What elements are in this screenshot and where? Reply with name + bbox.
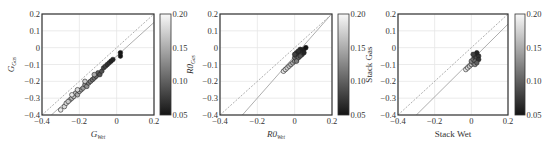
y-tick-label: −0.2 [381,76,396,86]
y-tick-label: 0.2 [29,9,40,19]
colorbar-tick-label: 0.20 [527,9,542,19]
scatter-panel-2: −0.4−0.200.20.20.10−0.1−0.2−0.3−0.4R0Wet… [185,9,365,140]
colorbar-tick-label: 0.10 [527,76,542,86]
y-tick-label: −0.1 [381,60,396,70]
y-tick-label: −0.4 [381,110,397,120]
y-tick-label: −0.3 [381,93,396,103]
x-axis-label: GWet [91,129,106,140]
x-axis-label: R0Wet [266,129,286,140]
colorbar-tick-label: 0.05 [351,110,366,120]
y-tick-label: −0.3 [25,93,40,103]
colorbar-tick-label: 0.15 [527,43,542,53]
data-point [92,72,97,77]
x-tick-label: −0.2 [72,116,87,126]
colorbar-tick-label: 0.15 [173,43,188,53]
y-tick-label: 0.1 [29,26,40,36]
data-point [111,57,116,62]
data-point [292,52,297,57]
y-tick-label: 0 [214,43,218,53]
y-tick-label: −0.3 [203,93,218,103]
data-point [66,99,71,104]
y-tick-label: 0.1 [385,26,396,36]
x-tick-label: −0.2 [250,116,265,126]
x-tick-label: 0.2 [327,116,338,126]
data-point [58,108,63,113]
x-tick-label: 0.2 [503,116,514,126]
y-tick-label: 0 [392,43,396,53]
y-axis-label: Stack Gas [364,46,374,83]
y-tick-label: −0.4 [203,110,219,120]
y-tick-label: 0.1 [207,26,218,36]
figure: −0.4−0.200.20.20.10−0.1−0.2−0.3−0.4GWetG… [0,0,554,148]
data-point [83,79,88,84]
y-tick-label: 0 [36,43,40,53]
x-tick-label: 0.2 [149,116,160,126]
colorbar: 0.200.150.100.05 [515,9,541,120]
fit-line [416,24,508,115]
data-point [296,49,301,54]
y-axis-label: GGas [6,57,17,72]
colorbar: 0.200.150.100.05 [338,9,365,120]
x-tick-label: −0.2 [427,116,442,126]
colorbar-tick-label: 0.05 [173,110,188,120]
data-point [298,54,303,59]
scatter-panel-3: −0.4−0.200.20.20.10−0.1−0.2−0.3−0.4Stack… [364,9,541,139]
y-tick-label: −0.1 [25,60,40,70]
colorbar: 0.200.150.100.05 [160,9,187,120]
colorbar-tick-label: 0.20 [173,9,188,19]
colorbar-tick-label: 0.20 [351,9,366,19]
y-axis-label: R0Gas [185,55,196,75]
data-point [304,45,309,50]
y-tick-label: −0.1 [203,60,218,70]
y-tick-label: 0.2 [207,9,218,19]
data-point [302,50,307,55]
data-point [475,61,480,66]
data-point [471,52,476,57]
y-tick-label: −0.4 [25,110,41,120]
colorbar-tick-label: 0.05 [527,110,542,120]
scatter-panel-1: −0.4−0.200.20.20.10−0.1−0.2−0.3−0.4GWetG… [6,9,187,140]
x-axis-label: Stack Wet [435,129,472,139]
data-point [75,87,80,92]
x-tick-label: 0 [115,116,119,126]
x-tick-label: 0 [293,116,297,126]
data-point [118,54,123,59]
y-tick-label: −0.2 [203,76,218,86]
x-tick-label: 0 [469,116,473,126]
y-tick-label: 0.2 [385,9,396,19]
colorbar-tick-label: 0.10 [173,76,188,86]
data-point [70,93,75,98]
data-point [294,59,299,64]
y-tick-label: −0.2 [25,76,40,86]
